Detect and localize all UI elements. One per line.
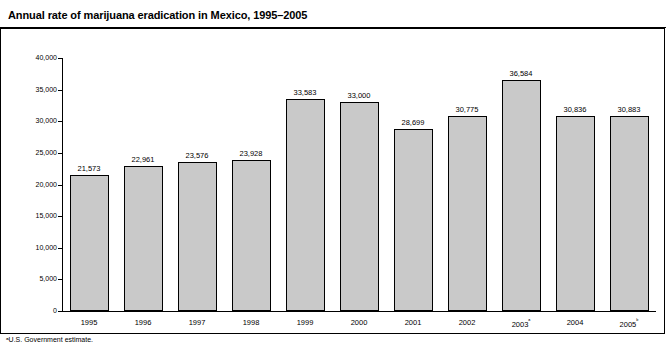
x-tick-label: 2002 bbox=[440, 318, 494, 327]
chart-page: Annual rate of marijuana eradication in … bbox=[0, 0, 666, 346]
x-tick-label: 1996 bbox=[116, 318, 170, 327]
x-tick-label: 2000 bbox=[332, 318, 386, 327]
x-tick-label: 2004 bbox=[548, 318, 602, 327]
x-tick-label: 2001 bbox=[386, 318, 440, 327]
x-axis-tick-labels: 199519961997199819992000200120022003ᵃ200… bbox=[0, 0, 666, 346]
x-tick-label: 1998 bbox=[224, 318, 278, 327]
x-tick-label: 2005ᵇ bbox=[602, 318, 656, 329]
footnote: ᵃU.S. Government estimate. bbox=[6, 336, 93, 343]
x-tick-label: 1997 bbox=[170, 318, 224, 327]
x-tick-label: 1995 bbox=[62, 318, 116, 327]
x-tick-label: 1999 bbox=[278, 318, 332, 327]
x-tick-label: 2003ᵃ bbox=[494, 318, 548, 329]
